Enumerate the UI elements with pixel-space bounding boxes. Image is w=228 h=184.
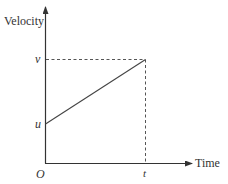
final-velocity-label: v — [35, 52, 41, 66]
velocity-time-graph: Velocity Time O v u t — [0, 0, 228, 184]
initial-velocity-label: u — [35, 117, 41, 131]
time-t-label: t — [143, 167, 147, 179]
x-axis-label: Time — [195, 156, 220, 170]
velocity-line — [46, 60, 146, 125]
origin-label: O — [36, 167, 45, 181]
y-axis-label: Velocity — [4, 14, 44, 28]
